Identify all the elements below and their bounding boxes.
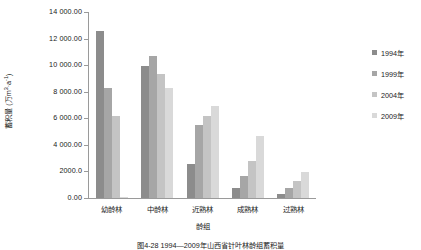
figure-caption: 图4-28 1994—2009年山西省针叶林龄组蓄积量 [0,240,421,250]
bar [256,136,264,198]
bar [187,164,195,198]
bar-group [180,12,225,198]
bar [293,181,301,198]
bar [277,194,285,198]
chart-legend: 1994年1999年2004年2009年 [372,42,420,126]
bar [240,176,248,198]
bar [157,74,165,198]
bar [285,188,293,198]
y-axis-title-sup-inverse: -1 [3,76,9,81]
y-axis-tick-label-text: 6 000.00 [12,113,82,122]
legend-swatch-icon [372,50,377,55]
y-axis-tick-label-text: 4 000.00 [12,140,82,149]
x-axis-tick-label: 过熟林 [271,203,316,214]
y-axis-tick-label-text: 0.00 [12,193,82,202]
y-axis-title-sup-cubic: 3 [3,87,9,90]
bar [195,125,203,198]
y-axis-tick-label: 8 000.00 [12,87,82,97]
legend-item[interactable]: 2009年 [372,105,420,126]
legend-item-label: 1999年 [381,69,404,79]
x-axis-tick-label: 成熟林 [225,203,270,214]
bar [104,88,112,198]
bar-group [134,12,179,198]
legend-swatch-icon [372,71,377,76]
legend-swatch-icon [372,113,377,118]
x-axis-tick-label: 幼龄林 [89,203,134,214]
y-axis-tick-label: 12 000.00 [12,34,82,44]
y-axis-tick [84,198,89,199]
y-axis-tick-label: 4 000.00 [12,140,82,150]
legend-item[interactable]: 2004年 [372,84,420,105]
bar [112,116,120,198]
bar [149,56,157,198]
y-axis-tick-label: 10 000.00 [12,60,82,70]
y-axis-tick-label-text: 12 000.00 [12,34,82,43]
y-axis-tick-label: 6 000.00 [12,113,82,123]
x-axis-tick-label: 近熟林 [180,203,225,214]
y-axis-tick-label: 0.00 [12,193,82,203]
x-axis-line [88,198,316,199]
x-axis-tick-label: 中龄林 [134,203,179,214]
bar [232,188,240,198]
x-axis-labels: 幼龄林中龄林近熟林成熟林过熟林 [89,203,316,214]
bar [96,31,104,198]
legend-item-label: 2009年 [381,111,404,121]
legend-item[interactable]: 1994年 [372,42,420,63]
bar-group [271,12,316,198]
bar [203,116,211,198]
bar-group [89,12,134,198]
bar [120,197,128,198]
bar [301,172,309,198]
y-axis-title-end: ) [4,74,13,76]
y-axis-tick-label: 14 000.00 [12,7,82,17]
x-axis-title: 龄组 [89,220,316,231]
bar [165,88,173,198]
legend-item-label: 1994年 [381,48,404,58]
bar-group [225,12,270,198]
legend-swatch-icon [372,92,377,97]
bar [248,161,256,198]
y-axis-tick-label-text: 14 000.00 [12,7,82,16]
y-axis-tick-label: 2000.0 [12,166,82,176]
y-axis-title: 蓄积量 (万m3·a-1) [3,63,13,139]
bar-groups [89,12,316,198]
legend-item[interactable]: 1999年 [372,63,420,84]
y-axis-tick-label-text: 2000.0 [12,166,82,175]
y-axis-tick-label-text: 8 000.00 [12,87,82,96]
legend-item-label: 2004年 [381,90,404,100]
bar [141,66,149,198]
y-axis-tick-label-text: 10 000.00 [12,60,82,69]
bar [211,106,219,198]
